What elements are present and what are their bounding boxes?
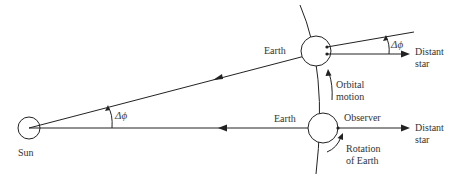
rotation-label-1: Rotation (346, 143, 380, 154)
arrow-up-icon (338, 133, 344, 140)
parallax-diagram: Sun Δϕ Earth Δϕ Distant star Orbital mot… (0, 0, 461, 176)
orbit-arc (300, 5, 320, 174)
distant-star-top-label-1: Distant (415, 46, 444, 57)
sun-to-earth-top-line (29, 56, 305, 128)
distant-star-bottom-label-2: star (415, 134, 430, 145)
earth-top-label: Earth (264, 45, 286, 56)
arrow-up-icon (326, 69, 332, 76)
angle-label-sun: Δϕ (114, 109, 127, 121)
arrow-up-icon (383, 35, 388, 41)
arrow-left-icon (218, 125, 227, 132)
angle-label-star: Δϕ (390, 38, 403, 50)
observer-label: Observer (344, 112, 381, 123)
earth-bottom-label: Earth (274, 113, 296, 124)
earth-bottom-circle (308, 113, 338, 143)
orbital-motion-label-2: motion (336, 91, 364, 102)
arrow-right-icon (401, 125, 410, 132)
sun-label: Sun (18, 147, 34, 158)
rotation-label-2: of Earth (346, 155, 379, 166)
arrow-left-icon (213, 74, 223, 80)
orbital-motion-label-1: Orbital (336, 79, 365, 90)
orbital-motion-arrow (329, 73, 332, 100)
distant-star-top-label-2: star (415, 58, 430, 69)
distant-star-bottom-label-1: Distant (415, 122, 444, 133)
arrow-right-icon (401, 51, 410, 58)
earth-top-circle (301, 36, 331, 66)
